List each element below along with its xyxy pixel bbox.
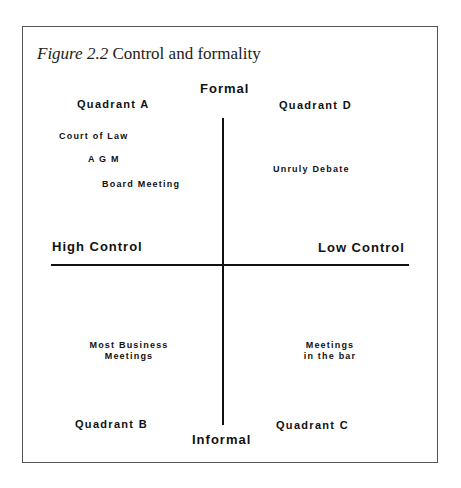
quadrant-a-label: Quadrant A (77, 98, 150, 110)
quadrant-d-label: Quadrant D (279, 99, 352, 111)
item-line: Meetings (290, 340, 370, 351)
quadrant-c-label: Quadrant C (276, 419, 349, 431)
item-line: Meetings (84, 351, 174, 362)
figure-title: Figure 2.2 Control and formality (37, 44, 261, 64)
item-court-of-law: Court of Law (59, 131, 128, 142)
item-line: in the bar (290, 351, 370, 362)
axis-label-formal: Formal (200, 81, 249, 96)
axis-label-high-control: High Control (52, 239, 143, 254)
item-unruly-debate: Unruly Debate (273, 164, 350, 175)
vertical-axis-line (222, 118, 224, 425)
item-meetings-in-the-bar: Meetings in the bar (290, 340, 370, 362)
quadrant-b-label: Quadrant B (75, 418, 148, 430)
figure-caption: Control and formality (112, 44, 260, 63)
axis-label-informal: Informal (192, 432, 251, 447)
item-board-meeting: Board Meeting (102, 179, 180, 190)
figure-label: Figure 2.2 (37, 44, 108, 63)
axis-label-low-control: Low Control (318, 240, 405, 255)
horizontal-axis-line (51, 264, 409, 266)
item-most-business-meetings: Most Business Meetings (84, 340, 174, 362)
item-agm: A G M (88, 154, 120, 165)
item-line: Most Business (84, 340, 174, 351)
